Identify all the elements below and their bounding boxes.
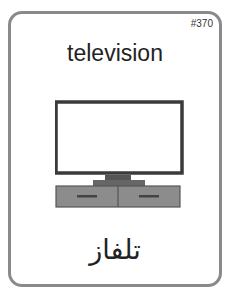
english-word: television — [11, 40, 219, 67]
card-number: #370 — [191, 18, 213, 29]
flashcard: #370 television تلفاز — [8, 11, 222, 287]
arabic-word: تلفاز — [11, 234, 219, 265]
television-icon — [55, 100, 185, 212]
